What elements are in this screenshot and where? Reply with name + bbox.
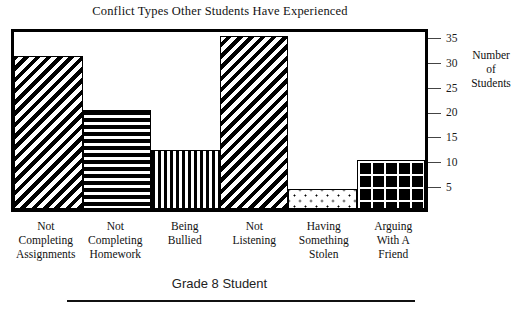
x-axis-category-labels: NotCompletingAssignmentsNotCompletingHom…: [11, 219, 428, 271]
y-tick-mark: [428, 63, 441, 64]
bar-5: [288, 189, 357, 209]
x-label-4: NotListening: [220, 219, 290, 247]
plot-area: [11, 29, 428, 212]
y-tick-label: 15: [446, 132, 458, 144]
y-tick-label: 25: [446, 82, 458, 94]
y-tick-label: 30: [446, 57, 458, 69]
x-label-line: Not: [11, 219, 81, 233]
x-label-line: With A: [359, 233, 429, 247]
x-label-line: Completing: [11, 233, 81, 247]
x-label-line: Not: [220, 219, 290, 233]
y-tick-label: 35: [446, 33, 458, 45]
bar-4: [220, 36, 289, 209]
x-label-line: Not: [81, 219, 151, 233]
y-tick-label: 20: [446, 107, 458, 119]
bar-6: [357, 160, 426, 209]
x-label-2: NotCompletingHomework: [81, 219, 151, 261]
x-label-6: ArguingWith AFriend: [359, 219, 429, 261]
y-tick-mark: [428, 137, 441, 138]
x-label-line: Bullied: [150, 233, 220, 247]
bar-3: [151, 150, 220, 209]
y-axis-title-line: Students: [462, 76, 520, 90]
y-tick-label: 5: [446, 181, 452, 193]
y-tick-mark: [428, 113, 441, 114]
x-label-line: Listening: [220, 233, 290, 247]
y-tick-mark: [428, 38, 441, 39]
y-tick-mark: [428, 162, 441, 163]
x-label-line: Assignments: [11, 247, 81, 261]
x-label-line: Completing: [81, 233, 151, 247]
x-label-line: Something: [289, 233, 359, 247]
y-axis-title-line: of: [462, 62, 520, 76]
bar-1: [14, 56, 83, 209]
y-tick-mark: [428, 187, 441, 188]
x-label-line: Being: [150, 219, 220, 233]
x-label-3: BeingBullied: [150, 219, 220, 247]
y-tick-label: 10: [446, 156, 458, 168]
x-label-line: Friend: [359, 247, 429, 261]
x-label-line: Having: [289, 219, 359, 233]
bar-chart: Conflict Types Other Students Have Exper…: [0, 0, 521, 310]
bar-2: [83, 110, 152, 209]
x-label-line: Homework: [81, 247, 151, 261]
x-label-line: Stolen: [289, 247, 359, 261]
y-axis-title-line: Number: [462, 48, 520, 62]
x-label-5: HavingSomethingStolen: [289, 219, 359, 261]
chart-title: Conflict Types Other Students Have Exper…: [0, 4, 440, 19]
x-axis-title: Grade 8 Student: [11, 276, 428, 291]
x-label-line: Arguing: [359, 219, 429, 233]
x-label-1: NotCompletingAssignments: [11, 219, 81, 261]
bottom-divider: [67, 300, 415, 302]
y-tick-mark: [428, 88, 441, 89]
y-axis-title: NumberofStudents: [462, 48, 520, 90]
bars-container: [14, 32, 425, 209]
